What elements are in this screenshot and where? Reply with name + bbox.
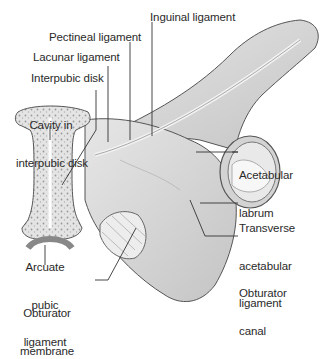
label-interpubic-disk: Interpubic disk xyxy=(31,72,104,85)
label-line: Arcuate xyxy=(10,261,80,274)
label-line: Acetabular xyxy=(239,169,293,182)
label-line: Cavity in xyxy=(16,119,86,132)
label-line: Obturator xyxy=(239,287,287,300)
pubic-body xyxy=(85,119,236,302)
label-line: membrane xyxy=(12,345,82,358)
label-obturator-membrane: Obturator membrane xyxy=(12,282,82,359)
label-cavity-interpubic-disk: Cavity in interpubic disk xyxy=(16,94,86,194)
label-line: canal xyxy=(239,325,287,338)
label-lacunar-ligament: Lacunar ligament xyxy=(33,51,120,64)
label-line: Obturator xyxy=(12,307,82,320)
label-line: Transverse xyxy=(239,222,295,235)
label-inguinal-ligament: Inguinal ligament xyxy=(150,11,235,24)
label-obturator-canal: Obturator canal xyxy=(239,262,287,359)
label-line: interpubic disk xyxy=(16,157,86,170)
label-pectineal-ligament: Pectineal ligament xyxy=(49,31,141,44)
